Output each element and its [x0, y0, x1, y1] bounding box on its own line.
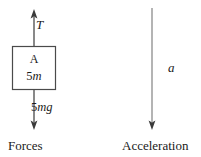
body-mass-label: 5m [12, 70, 56, 83]
forces-caption: Forces [8, 138, 43, 154]
acceleration-caption: Acceleration [122, 138, 188, 154]
acceleration-label: a [168, 61, 175, 74]
free-body-diagram-figure: T A 5m 5mg a Forces Acceleration [0, 0, 201, 157]
acceleration-arrow [149, 8, 156, 130]
weight-symbol: mg [37, 100, 52, 114]
body-name-label: A [12, 53, 56, 65]
body-mass-symbol: m [33, 69, 42, 83]
weight-label: 5mg [31, 101, 53, 114]
tension-label: T [36, 18, 43, 31]
